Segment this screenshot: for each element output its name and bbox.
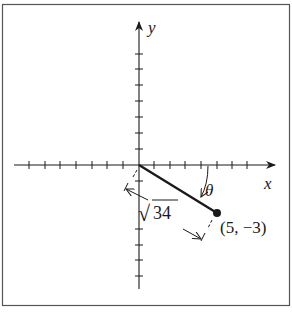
y-axis	[135, 22, 143, 289]
y-axis-label: y	[146, 18, 156, 37]
angle-label: θ	[205, 181, 213, 200]
coordinate-diagram: y x θ (5, −3) √ 34	[0, 0, 292, 317]
length-label: √ 34	[138, 200, 178, 226]
point-label: (5, −3)	[220, 218, 266, 237]
x-axis-label: x	[263, 174, 272, 193]
point-marker	[213, 209, 221, 217]
radical-sign: √	[138, 201, 151, 226]
figure-frame	[3, 5, 290, 306]
radicand: 34	[153, 203, 171, 223]
